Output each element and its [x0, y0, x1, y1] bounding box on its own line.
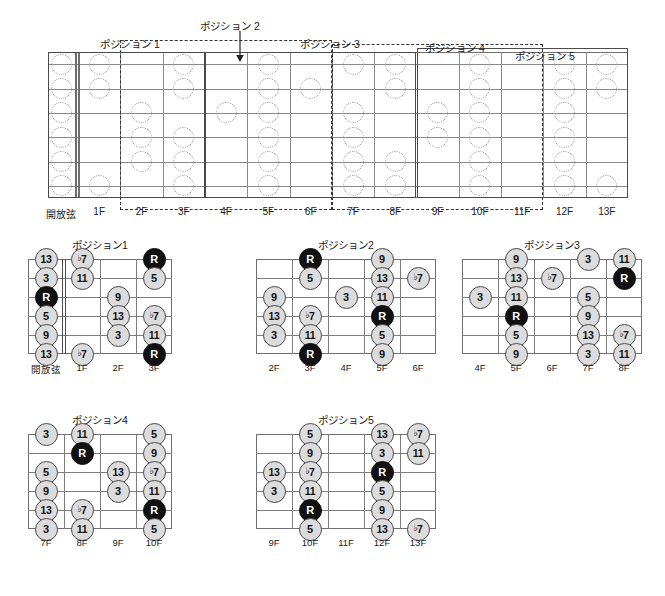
diagram-fret-line	[400, 259, 401, 354]
diagram-fret-label: 4F	[331, 362, 361, 373]
note-marker[interactable]: R	[613, 267, 636, 290]
note-value: 7	[153, 467, 159, 478]
diagram-fret-label: 6F	[403, 362, 433, 373]
note-value: 7	[81, 254, 87, 265]
ghost-note	[131, 151, 152, 172]
diagram-fret-line	[136, 259, 137, 354]
diagram-fret-line	[328, 259, 329, 354]
master-fret-label: 5F	[254, 206, 282, 217]
note-value: 11	[413, 448, 424, 459]
note-value: 5	[151, 524, 157, 535]
note-marker[interactable]: 3	[263, 324, 286, 347]
note-marker[interactable]: 11	[71, 267, 94, 290]
diagram-fret-line	[136, 434, 137, 529]
note-value: 5	[379, 486, 385, 497]
diagram-fret-line	[100, 259, 101, 354]
note-marker[interactable]: 3	[469, 286, 492, 309]
note-marker[interactable]: ♭7	[541, 267, 564, 290]
ghost-note	[469, 127, 490, 148]
note-marker[interactable]: 3	[107, 324, 130, 347]
note-value: 5	[307, 273, 313, 284]
note-value: 3	[43, 524, 49, 535]
note-value: 9	[379, 254, 385, 265]
master-fret-label: 9F	[424, 206, 452, 217]
note-value: 3	[585, 254, 591, 265]
ghost-note	[89, 78, 110, 99]
diagram-fret-label: 2F	[103, 362, 133, 373]
diagram-string-line	[256, 510, 436, 511]
note-value: 7	[417, 524, 423, 535]
note-value: 13	[112, 311, 123, 322]
note-value: 3	[43, 429, 49, 440]
note-marker[interactable]: 11	[407, 442, 430, 465]
note-value: 7	[551, 273, 557, 284]
diagram-fret-label: 2F	[259, 362, 289, 373]
fret-line	[205, 52, 206, 198]
ghost-note	[427, 127, 448, 148]
note-marker[interactable]: 3	[577, 248, 600, 271]
ghost-note	[469, 54, 490, 75]
ghost-note	[385, 151, 406, 172]
fret-line	[501, 52, 502, 198]
note-value: 3	[115, 330, 121, 341]
ghost-note	[343, 175, 364, 196]
fret-line	[374, 52, 375, 198]
master-fret-label: 2F	[128, 206, 156, 217]
flat-sign: ♭	[548, 273, 552, 282]
note-value: R	[42, 292, 50, 303]
note-marker[interactable]: R	[71, 442, 94, 465]
note-value: 9	[115, 292, 121, 303]
note-marker[interactable]: 5	[143, 267, 166, 290]
nut-line	[75, 52, 77, 198]
note-marker[interactable]: 5	[299, 267, 322, 290]
ghost-note	[51, 78, 72, 99]
fret-line	[332, 52, 333, 198]
diagram-fret-label: 開放弦	[23, 362, 69, 376]
fret-line	[586, 52, 587, 198]
note-marker[interactable]: 3	[335, 286, 358, 309]
note-value: 5	[43, 467, 49, 478]
diagram-fret-line	[498, 259, 499, 354]
master-fret-label: 7F	[339, 206, 367, 217]
note-marker[interactable]: 3	[107, 480, 130, 503]
string-line	[48, 186, 628, 187]
ghost-note	[596, 54, 617, 75]
note-marker[interactable]: 3	[35, 423, 58, 446]
note-value: 13	[510, 273, 521, 284]
ghost-note	[258, 78, 279, 99]
diagram-position-5: ポジション513359♭711R5133R5913♭711♭79F10F11F1…	[256, 412, 464, 565]
diagram-fret-label: 3F	[139, 362, 169, 373]
nut-line	[78, 52, 80, 198]
master-fret-label: 10F	[466, 206, 494, 217]
note-value: 11	[619, 254, 630, 265]
diagram-fret-label: 10F	[131, 537, 177, 548]
diagram-position-3: ポジション3391311R59♭735913311R♭7114F5F6F7F8F	[462, 237, 665, 390]
ghost-note	[51, 175, 72, 196]
position-box-label: ポジション 5	[515, 48, 575, 63]
diagram-fret-label: 9F	[103, 537, 133, 548]
note-marker[interactable]: ♭7	[407, 267, 430, 290]
master-fret-label: 3F	[170, 206, 198, 217]
ghost-note	[258, 151, 279, 172]
string-line	[48, 89, 628, 90]
fret-line	[120, 52, 121, 198]
diagram-position-1: ポジション1133R5913♭711♭79133R5♭711R開放弦1F2F3F	[28, 237, 200, 390]
note-value: 13	[112, 467, 123, 478]
ghost-note	[173, 127, 194, 148]
flat-sign: ♭	[306, 311, 310, 320]
diagram-fret-label: 5F	[501, 362, 531, 373]
master-fret-label: 1F	[85, 206, 113, 217]
position-box-label: ポジション 2	[200, 18, 260, 33]
note-marker[interactable]: 3	[263, 480, 286, 503]
note-value: 3	[43, 273, 49, 284]
note-value: 5	[513, 330, 519, 341]
diagram-fret-label: 7F	[573, 362, 603, 373]
master-fret-label: 6F	[297, 206, 325, 217]
diagram-fret-label: 8F	[609, 362, 639, 373]
master-fret-label: 13F	[593, 206, 621, 217]
ghost-note	[216, 102, 237, 123]
diagram-fret-label: 9F	[259, 537, 289, 548]
diagram-fret-line	[400, 434, 401, 529]
ghost-note	[554, 151, 575, 172]
diagram-fret-line	[328, 434, 329, 529]
